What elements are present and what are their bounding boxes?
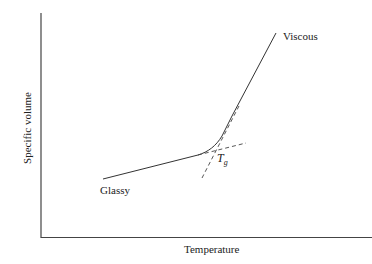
x-axis-label: Temperature (184, 243, 239, 255)
viscous-line (232, 33, 276, 116)
tg-subscript: g (224, 158, 228, 167)
glassy-line (103, 155, 198, 179)
glassy-label: Glassy (100, 184, 130, 196)
y-axis-label: Specific volume (21, 92, 33, 164)
tg-main: T (217, 151, 224, 165)
transition-curve (198, 116, 232, 155)
viscous-label: Viscous (283, 30, 318, 42)
tg-label: Tg (217, 151, 228, 167)
